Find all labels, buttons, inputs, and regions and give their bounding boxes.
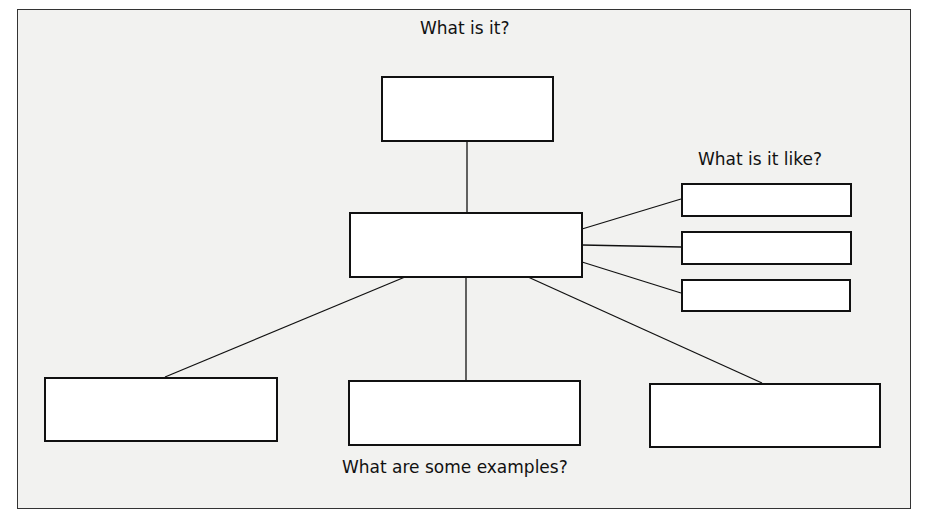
property-box-2[interactable] (681, 231, 852, 265)
property-box-1[interactable] (681, 183, 852, 217)
definition-box[interactable] (381, 76, 554, 142)
label-examples: What are some examples? (342, 457, 568, 477)
center-concept-box[interactable] (349, 212, 583, 278)
example-box-2[interactable] (348, 380, 581, 446)
property-box-3[interactable] (681, 279, 851, 312)
label-what-is-it-like: What is it like? (698, 149, 822, 169)
example-box-1[interactable] (44, 377, 278, 442)
label-what-is-it: What is it? (420, 18, 509, 38)
example-box-3[interactable] (649, 383, 881, 448)
